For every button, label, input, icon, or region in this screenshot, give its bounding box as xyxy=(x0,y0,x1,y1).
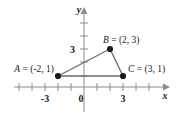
segment-b-to-c xyxy=(110,49,123,76)
x-tick-label-neg3: -3 xyxy=(41,93,49,104)
vertex-point-b xyxy=(107,46,113,52)
y-tick-label-3: 3 xyxy=(70,44,75,55)
point-label-a-equals: = ( xyxy=(20,64,33,75)
point-labels-group: A = (-2, 1) B = (2, 3) C = (3, 1) xyxy=(13,35,165,75)
coordinate-plane-svg: -3 0 3 x 3 y xyxy=(0,0,176,117)
point-label-b-coords: 2, 3 xyxy=(122,35,137,45)
y-axis-label: y xyxy=(76,4,82,15)
triangle-vertices-group xyxy=(55,46,126,79)
coordinate-plane-figure: -3 0 3 x 3 y xyxy=(0,0,176,117)
triangle-sides-group xyxy=(58,49,123,76)
x-tick-label-3: 3 xyxy=(121,93,126,104)
point-label-c: C = (3, 1) xyxy=(128,64,165,75)
point-label-c-equals: = ( xyxy=(134,64,147,75)
x-axis-label: x xyxy=(162,90,168,101)
point-label-c-close: ) xyxy=(162,64,165,75)
point-label-b: B = (2, 3) xyxy=(103,35,140,46)
vertex-point-a xyxy=(55,73,61,79)
x-tick-label-origin: 0 xyxy=(79,93,84,104)
point-label-a: A = (-2, 1) xyxy=(13,64,54,75)
point-label-b-close: ) xyxy=(136,35,139,46)
y-axis-arrow-icon xyxy=(81,7,88,14)
point-label-c-coords: 3, 1 xyxy=(148,64,163,74)
point-label-b-equals: = ( xyxy=(109,35,122,46)
vertex-point-c xyxy=(120,73,126,79)
point-label-a-coords: -2, 1 xyxy=(33,64,51,74)
x-axis-group: -3 0 3 x xyxy=(14,83,170,104)
point-label-a-close: ) xyxy=(51,64,54,75)
